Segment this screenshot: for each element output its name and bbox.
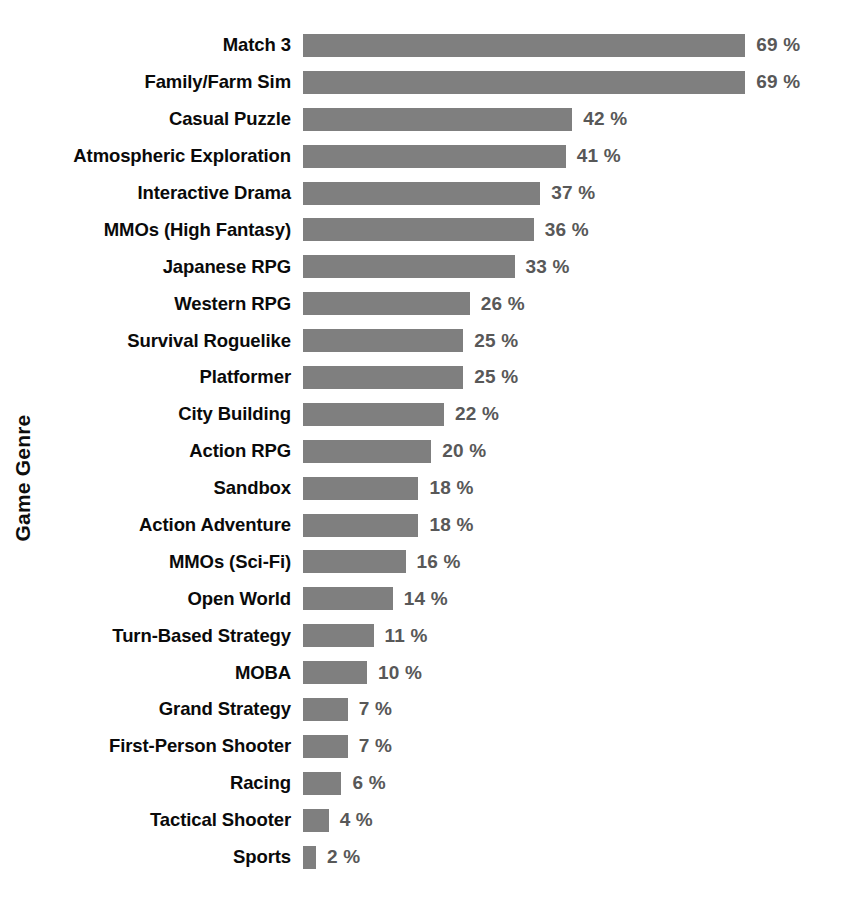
bar-category-label: First-Person Shooter: [0, 735, 303, 757]
bar-row: Action Adventure18 %: [0, 507, 842, 544]
bar-row: Sandbox18 %: [0, 470, 842, 507]
bar-category-label: Sandbox: [0, 477, 303, 499]
bar-value-label: 25 %: [474, 330, 518, 352]
bar: [303, 145, 566, 168]
bar-value-label: 7 %: [359, 698, 392, 720]
bar-category-label: MMOs (High Fantasy): [0, 219, 303, 241]
bar-category-label: Racing: [0, 772, 303, 794]
bar-value-label: 25 %: [474, 366, 518, 388]
bar-value-label: 16 %: [417, 551, 461, 573]
bar: [303, 366, 463, 389]
bar-category-label: MOBA: [0, 662, 303, 684]
bar-row: MOBA10 %: [0, 654, 842, 691]
bar-category-label: Atmospheric Exploration: [0, 145, 303, 167]
bar: [303, 292, 470, 315]
bar: [303, 440, 431, 463]
bar-track: 4 %: [303, 802, 842, 839]
bar-value-label: 18 %: [429, 514, 473, 536]
plot-area: Match 369 %Family/Farm Sim69 %Casual Puz…: [0, 27, 842, 917]
bar-category-label: Open World: [0, 588, 303, 610]
bar-row: MMOs (Sci-Fi)16 %: [0, 543, 842, 580]
bar-track: 7 %: [303, 691, 842, 728]
bar-value-label: 18 %: [429, 477, 473, 499]
bar: [303, 550, 406, 573]
bar-category-label: Action RPG: [0, 440, 303, 462]
bar-track: 25 %: [303, 359, 842, 396]
bar-track: 16 %: [303, 543, 842, 580]
bar-value-label: 14 %: [404, 588, 448, 610]
bar-track: 26 %: [303, 285, 842, 322]
bar-row: City Building22 %: [0, 396, 842, 433]
bar: [303, 403, 444, 426]
bar: [303, 809, 329, 832]
bar-value-label: 20 %: [442, 440, 486, 462]
bar-row: Family/Farm Sim69 %: [0, 64, 842, 101]
bar-value-label: 11 %: [385, 625, 428, 647]
bar-value-label: 22 %: [455, 403, 499, 425]
bar: [303, 255, 515, 278]
bar-value-label: 4 %: [340, 809, 373, 831]
bar: [303, 846, 316, 869]
bar-track: 6 %: [303, 765, 842, 802]
bar-row: Interactive Drama37 %: [0, 175, 842, 212]
bar-value-label: 36 %: [545, 219, 589, 241]
bar-category-label: City Building: [0, 403, 303, 425]
bar-row: Tactical Shooter4 %: [0, 802, 842, 839]
bar-chart-figure: Game Genre Match 369 %Family/Farm Sim69 …: [0, 0, 842, 924]
bar-track: 2 %: [303, 839, 842, 876]
bar-value-label: 69 %: [756, 71, 800, 93]
bar-value-label: 37 %: [551, 182, 595, 204]
bar-track: 7 %: [303, 728, 842, 765]
bar: [303, 735, 348, 758]
bar-category-label: Casual Puzzle: [0, 108, 303, 130]
bar-row: Casual Puzzle42 %: [0, 101, 842, 138]
bar-category-label: Grand Strategy: [0, 698, 303, 720]
bar: [303, 108, 572, 131]
bar-track: 22 %: [303, 396, 842, 433]
bar-category-label: Turn-Based Strategy: [0, 625, 303, 647]
bar-track: 18 %: [303, 507, 842, 544]
bar: [303, 661, 367, 684]
bar-value-label: 42 %: [583, 108, 627, 130]
bar-row: Action RPG20 %: [0, 433, 842, 470]
bar-track: 69 %: [303, 64, 842, 101]
bar-row: Grand Strategy7 %: [0, 691, 842, 728]
bar-category-label: Survival Roguelike: [0, 330, 303, 352]
bar-value-label: 33 %: [526, 256, 570, 278]
bar: [303, 329, 463, 352]
bar: [303, 772, 341, 795]
bar: [303, 587, 393, 610]
bar-value-label: 7 %: [359, 735, 392, 757]
bar: [303, 477, 418, 500]
bar-row: First-Person Shooter7 %: [0, 728, 842, 765]
bar-track: 36 %: [303, 211, 842, 248]
bar: [303, 698, 348, 721]
bar-value-label: 6 %: [352, 772, 385, 794]
bar-track: 10 %: [303, 654, 842, 691]
bar-track: 41 %: [303, 138, 842, 175]
bar: [303, 624, 374, 647]
bar: [303, 514, 418, 537]
bar-category-label: Family/Farm Sim: [0, 71, 303, 93]
bar-track: 25 %: [303, 322, 842, 359]
bar-category-label: MMOs (Sci-Fi): [0, 551, 303, 573]
bar-row: Survival Roguelike25 %: [0, 322, 842, 359]
bar: [303, 71, 745, 94]
bar-row: Turn-Based Strategy11 %: [0, 617, 842, 654]
bar-row: Platformer25 %: [0, 359, 842, 396]
bar-category-label: Match 3: [0, 34, 303, 56]
bar-value-label: 26 %: [481, 293, 525, 315]
bar-value-label: 69 %: [756, 34, 800, 56]
bar-category-label: Western RPG: [0, 293, 303, 315]
bar-category-label: Action Adventure: [0, 514, 303, 536]
bar-row: Western RPG26 %: [0, 285, 842, 322]
bar-track: 37 %: [303, 175, 842, 212]
bar-track: 20 %: [303, 433, 842, 470]
bar-category-label: Tactical Shooter: [0, 809, 303, 831]
bar-row: Open World14 %: [0, 580, 842, 617]
bar-value-label: 41 %: [577, 145, 621, 167]
bar-track: 69 %: [303, 27, 842, 64]
bar-row: Atmospheric Exploration41 %: [0, 138, 842, 175]
bar-row: Japanese RPG33 %: [0, 248, 842, 285]
bar-track: 18 %: [303, 470, 842, 507]
